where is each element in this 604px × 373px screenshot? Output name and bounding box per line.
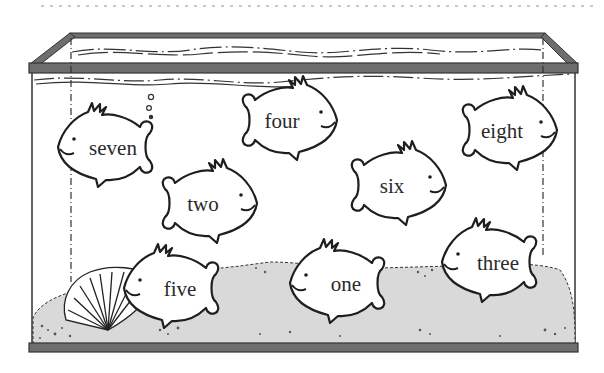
fish-label-five: five [164, 277, 197, 301]
tank-base [29, 343, 578, 352]
fish-label-three: three [477, 251, 519, 275]
fish-label-six: six [380, 174, 405, 198]
fish-label-eight: eight [481, 119, 523, 143]
fish-label-four: four [265, 109, 300, 133]
fish-label-one: one [331, 272, 361, 296]
aquarium-scene: seven four eight two six five one three [0, 0, 604, 373]
fish-label-seven: seven [89, 136, 137, 160]
fish-label-two: two [187, 192, 219, 216]
bubbles-icon [147, 94, 154, 118]
